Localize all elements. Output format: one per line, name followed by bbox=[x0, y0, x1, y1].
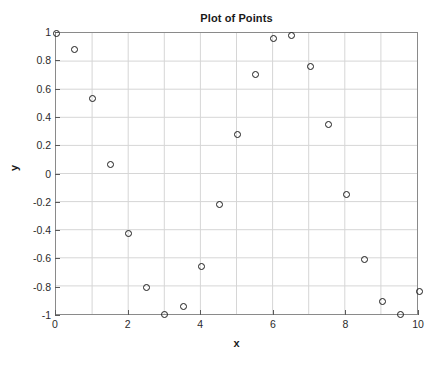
y-tick-mark bbox=[55, 117, 60, 118]
x-tick-label: 6 bbox=[270, 318, 276, 330]
y-tick-label: -0.8 bbox=[33, 281, 51, 293]
y-tick-label: 0 bbox=[45, 168, 51, 180]
y-tick-label: 1 bbox=[45, 26, 51, 38]
data-point bbox=[89, 95, 96, 102]
data-point bbox=[307, 63, 314, 70]
y-tick-label: -0.4 bbox=[33, 224, 51, 236]
x-tick-label: 2 bbox=[125, 318, 131, 330]
x-tick-label: 8 bbox=[342, 318, 348, 330]
plot-area bbox=[55, 32, 418, 315]
x-tick-mark bbox=[200, 310, 201, 315]
data-point bbox=[216, 201, 223, 208]
y-tick-mark bbox=[55, 89, 60, 90]
data-point bbox=[288, 32, 295, 39]
data-point bbox=[143, 284, 150, 291]
data-point bbox=[180, 303, 187, 310]
x-tick-label: 4 bbox=[197, 318, 203, 330]
page-title: Plot of Points bbox=[55, 12, 418, 24]
x-tick-mark bbox=[128, 310, 129, 315]
figure-canvas: Plot of Points 0246810 10.80.60.40.20-0.… bbox=[0, 0, 447, 366]
y-tick-label: -0.6 bbox=[33, 252, 51, 264]
y-tick-label: 0.2 bbox=[36, 139, 51, 151]
x-tick-mark bbox=[345, 310, 346, 315]
x-tick-label: 0 bbox=[52, 318, 58, 330]
y-tick-mark bbox=[55, 202, 60, 203]
x-tick-mark bbox=[273, 310, 274, 315]
y-tick-mark bbox=[55, 287, 60, 288]
data-point bbox=[343, 191, 350, 198]
data-point bbox=[416, 288, 423, 295]
y-axis-label: y bbox=[8, 148, 20, 188]
data-point bbox=[71, 46, 78, 53]
data-point bbox=[252, 71, 259, 78]
y-tick-label: 0.8 bbox=[36, 54, 51, 66]
data-point bbox=[198, 263, 205, 270]
data-point bbox=[125, 230, 132, 237]
y-tick-mark bbox=[55, 258, 60, 259]
y-tick-mark bbox=[55, 60, 60, 61]
y-tick-label: 0.4 bbox=[36, 111, 51, 123]
y-tick-mark bbox=[55, 32, 60, 33]
data-point bbox=[107, 161, 114, 168]
data-point bbox=[397, 311, 404, 318]
data-point bbox=[234, 131, 241, 138]
data-point bbox=[361, 256, 368, 263]
data-point bbox=[53, 30, 60, 37]
y-tick-mark bbox=[55, 230, 60, 231]
y-tick-label: -0.2 bbox=[33, 196, 51, 208]
x-tick-label: 10 bbox=[412, 318, 424, 330]
data-point bbox=[270, 35, 277, 42]
x-axis-label: x bbox=[55, 337, 418, 349]
data-point bbox=[379, 298, 386, 305]
x-tick-mark bbox=[418, 310, 419, 315]
y-tick-label: 0.6 bbox=[36, 83, 51, 95]
y-tick-mark bbox=[55, 145, 60, 146]
y-tick-mark bbox=[55, 174, 60, 175]
y-tick-label: -1 bbox=[42, 309, 51, 321]
y-tick-mark bbox=[55, 315, 60, 316]
data-points-layer bbox=[56, 33, 417, 314]
data-point bbox=[161, 311, 168, 318]
data-point bbox=[325, 121, 332, 128]
